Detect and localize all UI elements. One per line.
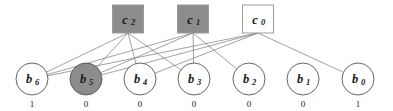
variable-node-label-b1: b (297, 72, 303, 86)
check-node-shape-c0 (243, 5, 274, 33)
variable-node-label-b5: b (80, 72, 86, 86)
variable-node-b6[interactable]: b6 (16, 63, 48, 95)
check-node-c2[interactable]: c2 (113, 5, 144, 33)
check-node-shape-c2 (113, 5, 144, 33)
edge-c0-b5 (101, 33, 258, 75)
variable-node-label-b6: b (26, 72, 32, 86)
variable-node-b4[interactable]: b4 (124, 63, 156, 95)
check-node-c0[interactable]: c0 (243, 5, 274, 33)
bit-value-b2: 0 (247, 99, 252, 109)
variable-node-b0[interactable]: b0 (342, 63, 374, 95)
variable-node-b1[interactable]: b1 (287, 63, 319, 95)
bit-value-b6: 1 (30, 99, 35, 109)
check-node-label-c0: c (252, 13, 258, 27)
variable-node-subscript-b2: 2 (251, 77, 257, 87)
check-node-label-c1: c (187, 13, 193, 27)
check-node-layer: c2c1c0 (113, 5, 274, 33)
variable-node-subscript-b1: 1 (306, 77, 310, 87)
variable-node-label-b3: b (188, 72, 194, 86)
variable-node-subscript-b4: 4 (142, 77, 147, 87)
variable-node-layer: b6b5b4b3b2b1b0 (16, 63, 374, 95)
variable-node-label-b2: b (243, 72, 249, 86)
bit-value-b4: 0 (138, 99, 143, 109)
bit-value-b0: 1 (356, 99, 361, 109)
diagram-canvas: c2c1c0 b6b5b4b3b2b1b0 1000001 (0, 0, 393, 111)
variable-node-b3[interactable]: b3 (178, 63, 210, 95)
variable-node-label-b4: b (134, 72, 140, 86)
edge-c1-b6 (47, 33, 193, 75)
variable-node-label-b0: b (352, 72, 358, 86)
check-node-subscript-c1: 1 (196, 17, 200, 27)
check-node-c1[interactable]: c1 (178, 5, 209, 33)
edge-c2-b5 (97, 33, 128, 67)
variable-node-subscript-b3: 3 (196, 77, 202, 87)
check-node-label-c2: c (122, 13, 128, 27)
tanner-graph-svg: c2c1c0 b6b5b4b3b2b1b0 1000001 (0, 0, 393, 111)
bit-value-b3: 0 (192, 99, 197, 109)
bit-value-layer: 1000001 (30, 99, 361, 109)
check-node-subscript-c2: 2 (130, 17, 136, 27)
bit-value-b1: 0 (301, 99, 306, 109)
variable-node-b2[interactable]: b2 (233, 63, 265, 95)
variable-node-b5[interactable]: b5 (70, 63, 102, 95)
check-node-shape-c1 (178, 5, 209, 33)
bit-value-b5: 0 (84, 99, 89, 109)
